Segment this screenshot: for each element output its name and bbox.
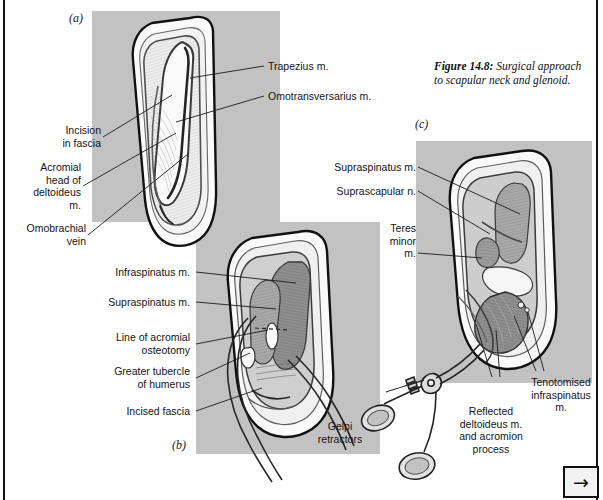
- page-border-left: [3, 0, 5, 500]
- panel-letter-b: (b): [172, 438, 186, 453]
- label-omobrachial-vein: Omobrachial vein: [8, 222, 86, 247]
- panel-notch-occluder: [92, 222, 196, 263]
- label-incision-in-fascia: Incision in fascia: [23, 124, 101, 149]
- label-supraspinatus-panel-b: Supraspinatus m.: [58, 296, 190, 309]
- panel-letter-c: (c): [415, 117, 428, 132]
- label-infraspinatus: Infraspinatus m.: [58, 266, 190, 279]
- page-border-right: [596, 0, 598, 500]
- figure-page: (a) (b) (c) Figure 14.8: Surgical approa…: [0, 0, 603, 500]
- label-incised-fascia: Incised fascia: [58, 405, 190, 418]
- label-line-of-acromial-osteotomy: Line of acromial osteotomy: [58, 331, 190, 356]
- label-suprascapular-nerve: Suprascapular n.: [316, 185, 416, 198]
- label-supraspinatus-panel-c: Supraspinatus m.: [316, 161, 416, 174]
- label-gelpi-retractors: Gelpi retractors: [306, 420, 374, 445]
- panel-letter-a: (a): [69, 11, 83, 26]
- label-teres-minor: Teres minor m.: [366, 222, 416, 260]
- label-tenotomised-infraspinatus: Tenotomised infraspinatus m.: [524, 376, 598, 414]
- label-reflected-deltoideus-and-acromion-process: Reflected deltoideus m. and acromion pro…: [448, 405, 534, 455]
- label-omotransversarius: Omotransversarius m.: [268, 90, 428, 103]
- figure-number: Figure 14.8:: [434, 60, 493, 72]
- figure-caption: Figure 14.8: Surgical approach to scapul…: [434, 60, 592, 87]
- panel-c-background: [416, 141, 592, 383]
- next-page-button[interactable]: →: [563, 466, 599, 498]
- arrow-right-icon: →: [573, 473, 589, 492]
- label-greater-tubercle-of-humerus: Greater tubercle of humerus: [58, 365, 190, 390]
- label-trapezius: Trapezius m.: [268, 60, 388, 73]
- label-acromial-head-of-deltoideus: Acromial head of deltoideus m.: [23, 161, 81, 211]
